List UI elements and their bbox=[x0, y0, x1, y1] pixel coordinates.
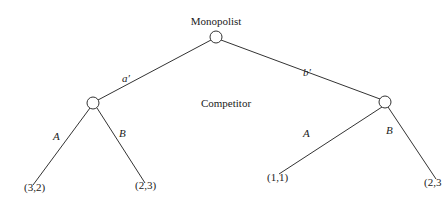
edge-right-B bbox=[388, 107, 436, 179]
monopolist-node bbox=[210, 31, 222, 43]
competitor-label: Competitor bbox=[201, 97, 251, 109]
edge-a-prime bbox=[98, 40, 211, 100]
action-label-left-A: A bbox=[52, 130, 60, 142]
action-label-right-A: A bbox=[302, 127, 310, 139]
edge-left-B bbox=[97, 108, 145, 183]
action-label-a-prime: a′ bbox=[122, 72, 131, 84]
action-label-b-prime: b′ bbox=[303, 66, 312, 78]
game-tree: Monopolist Competitor a′ b′ A B A B (3,2… bbox=[0, 0, 442, 207]
payoff-left-B: (2,3) bbox=[135, 179, 156, 192]
edge-right-A bbox=[279, 107, 382, 174]
competitor-node-right bbox=[379, 96, 391, 108]
monopolist-label: Monopolist bbox=[191, 15, 242, 27]
payoff-left-A: (3,2) bbox=[24, 181, 45, 194]
payoff-right-A: (1,1) bbox=[267, 171, 288, 184]
action-label-right-B: B bbox=[386, 124, 393, 136]
action-label-left-B: B bbox=[119, 127, 126, 139]
competitor-node-left bbox=[87, 97, 99, 109]
edge-b-prime bbox=[221, 40, 380, 99]
edge-left-A bbox=[33, 108, 90, 185]
payoff-right-B: (2,3 bbox=[424, 176, 442, 189]
